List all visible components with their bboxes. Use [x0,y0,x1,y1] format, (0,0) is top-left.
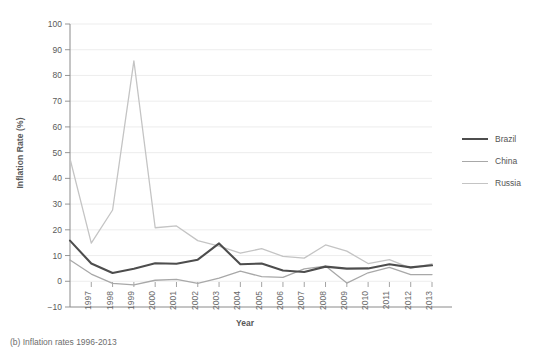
legend-line-swatch [462,161,488,162]
x-axis-title: Year [185,318,305,328]
x-axis-tick-label: 2007 [296,291,306,310]
figure-caption: (b) Inflation rates 1996-2013 [10,337,117,347]
y-axis-tick-label: 70 [53,96,63,106]
x-axis-tick-label: 2005 [254,291,264,310]
y-axis-tick-label: 20 [53,225,63,235]
x-axis-tick-label: 1999 [126,291,136,310]
series-line-brazil [70,241,432,273]
y-axis-tick-label: 40 [53,173,63,183]
y-axis-tick-label: 10 [53,251,63,261]
x-axis-tick-label: 2000 [147,291,157,310]
y-axis-tick-label: −10 [48,302,63,312]
x-axis-tick-label: 2011 [381,291,391,310]
x-axis-tick-label: 2013 [424,291,434,310]
x-axis-tick-label: 2001 [168,291,178,310]
y-axis-tick-label: 100 [48,19,62,29]
y-axis-tick-label: 50 [53,148,63,158]
legend-item-brazil[interactable]: Brazil [462,128,552,150]
y-axis-tick-label: 0 [57,276,62,286]
legend-line-swatch [462,138,488,140]
x-axis-tick-label: 2002 [190,291,200,310]
x-axis-tick-label: 2004 [232,291,242,310]
legend-item-label: Brazil [495,134,516,144]
x-axis-tick-label: 2010 [360,291,370,310]
y-axis-tick-label: 80 [53,70,63,80]
y-axis-tick-label: 30 [53,199,63,209]
x-axis-tick-label: 2012 [403,291,413,310]
x-axis-tick-label: 2003 [211,291,221,310]
legend-line-swatch [462,183,488,184]
chart-legend: BrazilChinaRussia [462,128,552,194]
x-axis-tick-label: 2009 [339,291,349,310]
y-axis-title: Inflation Rate (%) [15,73,25,233]
legend-item-label: China [495,156,517,166]
legend-item-china[interactable]: China [462,150,552,172]
x-axis-tick-label: 1997 [83,291,93,310]
figure-inflation-rates: −100102030405060708090100199719981999200… [0,0,555,356]
legend-item-russia[interactable]: Russia [462,172,552,194]
legend-item-label: Russia [495,178,521,188]
y-axis-tick-label: 60 [53,122,63,132]
series-line-russia [70,61,432,268]
x-axis-tick-label: 2006 [275,291,285,310]
x-axis-tick-label: 1998 [105,291,115,310]
x-axis-tick-label: 2008 [318,291,328,310]
y-axis-tick-label: 90 [53,45,63,55]
